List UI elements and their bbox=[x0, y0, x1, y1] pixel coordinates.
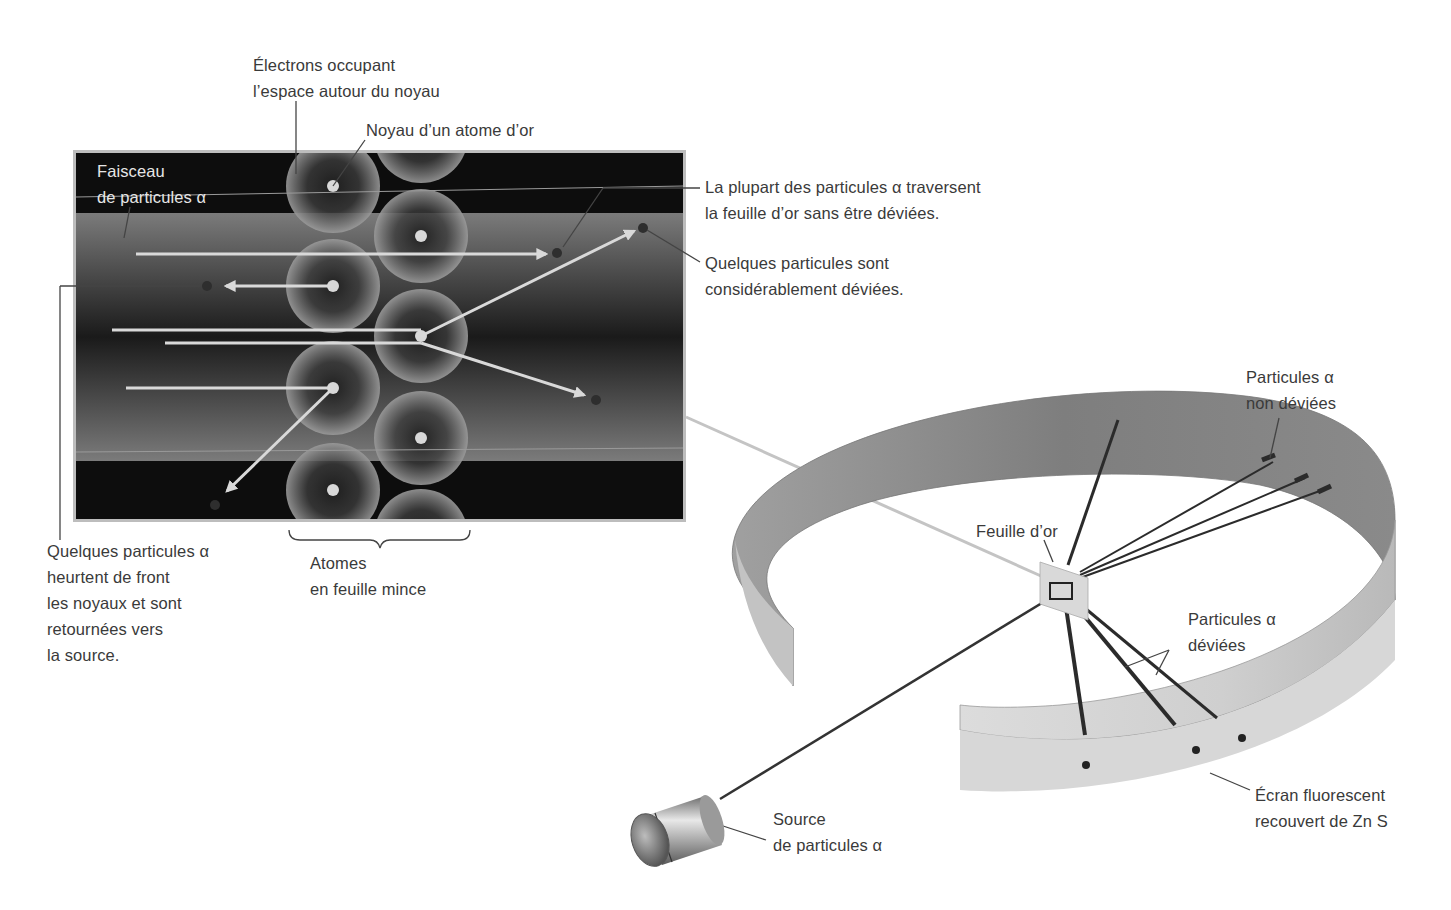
rutherford-diagram bbox=[0, 0, 1451, 910]
label-beam: Faisceau de particules α bbox=[97, 158, 206, 210]
label-electrons: Électrons occupant l’espace autour du no… bbox=[253, 52, 440, 104]
label-atoms: Atomes en feuille mince bbox=[310, 550, 426, 602]
label-deflected: Particules α déviées bbox=[1188, 606, 1276, 658]
label-most-pass: La plupart des particules α traversent l… bbox=[705, 174, 981, 226]
label-screen: Écran fluorescent recouvert de Zn S bbox=[1255, 782, 1388, 834]
label-source: Source de particules α bbox=[773, 806, 882, 858]
label-some-deflected: Quelques particules sont considérablemen… bbox=[705, 250, 904, 302]
label-head-on: Quelques particules α heurtent de front … bbox=[47, 538, 209, 668]
label-foil: Feuille d’or bbox=[976, 518, 1058, 544]
label-nucleus: Noyau d’un atome d’or bbox=[366, 117, 534, 143]
label-undeflected: Particules α non déviées bbox=[1246, 364, 1336, 416]
alpha-source-cylinder bbox=[625, 792, 730, 871]
